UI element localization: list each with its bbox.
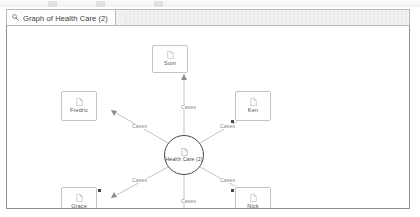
document-icon [250,194,257,202]
graph-node-ken[interactable]: Ken [235,91,271,121]
toolbar-ghost-button [154,1,163,7]
graph-node-fredric[interactable]: Fredric [61,91,97,121]
document-icon [181,148,188,156]
tab-label: Graph of Health Care (2) [23,14,108,23]
tab-graph-of-health-care[interactable]: Graph of Health Care (2) [7,10,116,26]
edge-label-fredric: Cases [131,124,148,129]
document-icon [76,98,83,106]
graph-node-label: Ken [248,108,258,114]
node-handle-ken[interactable] [231,120,234,123]
edge-label-ken: Cases [219,124,236,129]
document-icon [167,51,174,59]
tab-bar: Graph of Health Care (2) [6,9,410,25]
tab-bar-empty-area [125,10,409,26]
node-handle-nick[interactable] [231,189,234,192]
graph-node-label: Nick [247,204,258,209]
graph-node-health-care[interactable]: Health Care (2) [164,135,204,175]
graph-node-label: Sum [164,61,176,67]
edge-label-grace: Cases [131,178,148,183]
edge-label-nick: Cases [219,178,236,183]
node-handle-grace[interactable] [98,189,101,192]
graph-node-grace[interactable]: Grace [61,187,97,209]
graph-node-label: Health Care (2) [166,157,203,163]
document-icon [76,194,83,202]
graph-node-label: Fredric [70,108,88,114]
graph-node-nick[interactable]: Nick [235,187,271,209]
graph-node-label: Grace [71,204,87,209]
graph-icon [12,14,20,22]
document-icon [250,98,257,106]
graph-node-sum[interactable]: Sum [152,45,188,73]
graph-window: Graph of Health Care (2) [0,0,420,217]
edge-label-bottom: Cases [180,199,197,204]
toolbar-ghost-button [96,1,105,7]
edge-label-sum: Cases [180,105,197,110]
toolbar-fragment [0,0,420,7]
toolbar-ghost-button [48,1,57,7]
edge-arrow-sum [181,74,187,80]
graph-canvas[interactable]: Sum Fredric Ken Grace [6,25,410,209]
